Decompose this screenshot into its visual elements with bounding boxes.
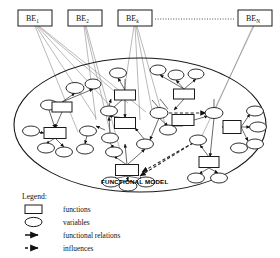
variable-node-21[interactable] bbox=[250, 122, 267, 132]
legend-variables-label: variables bbox=[63, 218, 90, 227]
variable-node-29[interactable] bbox=[160, 125, 177, 135]
variable-node-2[interactable] bbox=[85, 79, 101, 89]
legend-functions-label: functions bbox=[63, 205, 91, 214]
variable-node-18[interactable] bbox=[77, 144, 94, 154]
legend-title: Legend: bbox=[22, 192, 47, 201]
legend-rect-icon bbox=[25, 205, 42, 214]
variable-node-8[interactable] bbox=[23, 126, 40, 136]
function-node-1[interactable] bbox=[52, 102, 72, 112]
variable-node-13[interactable] bbox=[102, 133, 119, 143]
variable-node-4[interactable] bbox=[150, 65, 166, 75]
variable-node-15[interactable] bbox=[190, 135, 207, 145]
variable-node-20[interactable] bbox=[247, 106, 264, 116]
legend-functional-relations-label: functional relations bbox=[63, 231, 120, 240]
be-boxes-group: BE1 BE2 BEk BEN bbox=[18, 10, 272, 26]
function-node-4[interactable] bbox=[174, 89, 195, 99]
function-node-5[interactable] bbox=[44, 128, 66, 139]
variable-node-3[interactable] bbox=[110, 68, 127, 78]
svg-text:FUNCTIONAL MODEL: FUNCTIONAL MODEL bbox=[101, 178, 168, 185]
legend-influences-label: influences bbox=[63, 244, 93, 253]
function-node-9[interactable] bbox=[116, 165, 139, 176]
be-box-2[interactable]: BE2 bbox=[68, 10, 102, 26]
variable-node-1[interactable] bbox=[66, 83, 84, 94]
function-node-2[interactable] bbox=[115, 90, 136, 100]
functional-model-diagram: BE1 BE2 BEk BEN bbox=[0, 0, 280, 258]
variable-node-6[interactable] bbox=[188, 69, 204, 79]
functional-model-title: FUNCTIONAL MODEL bbox=[101, 178, 168, 185]
variable-node-19[interactable] bbox=[106, 147, 123, 157]
variable-node-23[interactable] bbox=[231, 143, 248, 153]
be-box-1[interactable]: BE1 bbox=[18, 10, 52, 26]
function-node-3[interactable] bbox=[115, 118, 136, 129]
function-node-7[interactable] bbox=[223, 121, 241, 134]
variable-node-27[interactable] bbox=[188, 173, 205, 183]
variable-node-22[interactable] bbox=[247, 139, 264, 149]
function-node-8[interactable] bbox=[199, 157, 219, 168]
variable-node-14[interactable] bbox=[137, 139, 154, 149]
variable-node-5[interactable] bbox=[168, 70, 184, 80]
variable-node-9[interactable] bbox=[101, 106, 118, 116]
variable-node-10[interactable] bbox=[150, 108, 168, 119]
diagram-canvas: BE1 BE2 BEk BEN bbox=[0, 0, 280, 258]
variable-node-11[interactable] bbox=[205, 108, 223, 119]
function-nodes-group bbox=[44, 89, 241, 176]
legend-panel: Legend: functions variables functional r… bbox=[22, 192, 120, 253]
function-node-6[interactable] bbox=[172, 115, 194, 126]
be-box-k[interactable]: BEk bbox=[118, 10, 152, 26]
variable-node-17[interactable] bbox=[56, 147, 73, 157]
variable-node-28[interactable] bbox=[211, 173, 228, 183]
variable-node-12[interactable] bbox=[80, 126, 97, 136]
legend-ellipse-icon bbox=[25, 217, 42, 226]
be-box-n[interactable]: BEN bbox=[238, 10, 272, 26]
variable-node-16[interactable] bbox=[38, 143, 55, 153]
